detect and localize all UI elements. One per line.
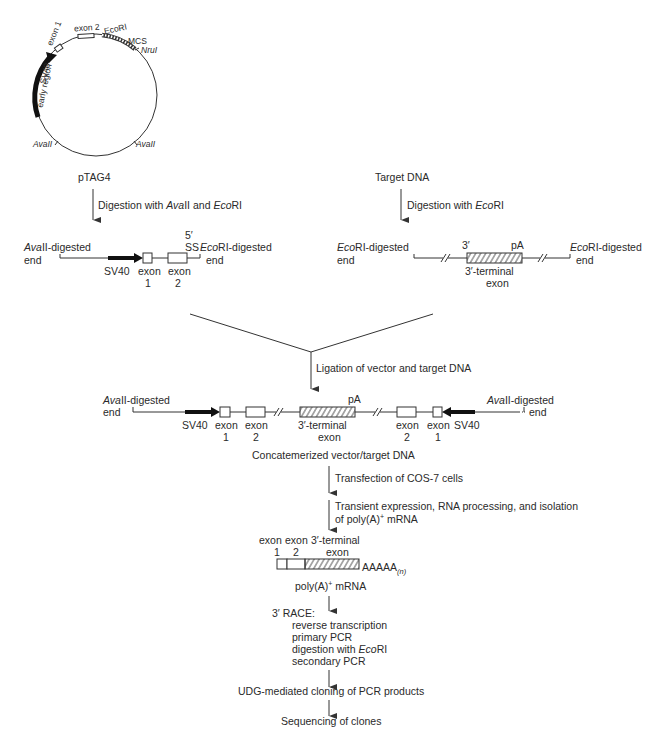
cloning-step-label: UDG-mediated cloning of PCR products	[238, 685, 424, 697]
concat-exon2-right-number: 2	[404, 431, 410, 443]
target-terminal-exon-box	[467, 253, 522, 263]
race-item-reverse-transcription: reverse transcription	[292, 619, 387, 631]
concat-exon1-right-label: exon	[427, 419, 450, 431]
plasmid-circle	[35, 34, 157, 156]
vector-source-label: pTAG4	[78, 171, 111, 183]
vector-sv40-label: SV40	[104, 265, 130, 277]
concat-exon1-left-label: exon	[215, 419, 238, 431]
plasmid-exon1-label: exon 1	[45, 19, 64, 47]
concat-exon1-left-box	[220, 407, 230, 417]
concat-exon2-right-box	[397, 407, 416, 417]
target-left-end-label: EcoRI-digested	[337, 241, 409, 253]
concatemer-label: Concatemerized vector/target DNA	[252, 449, 415, 461]
vector-exon2-box	[168, 253, 187, 263]
mrna-exon1-number: 1	[274, 546, 280, 558]
vector-branch: pTAG4 Digestion with AvaII and EcoRI Ava…	[23, 171, 272, 289]
vector-5ss-label: 5′	[185, 229, 193, 241]
concat-terminal-exon-label-2: exon	[318, 431, 341, 443]
concat-sv40-right-label: SV40	[454, 419, 480, 431]
concat-exon2-left-number: 2	[253, 431, 259, 443]
target-right-flank	[545, 254, 570, 258]
transfection-step-label: Transfection of COS-7 cells	[335, 472, 463, 484]
mrna-exon2-box	[287, 559, 305, 569]
concat-exon1-right-box	[433, 407, 442, 417]
target-pa-label: pA	[511, 239, 524, 251]
mrna-polya-tail: AAAAA(n)	[362, 561, 407, 576]
processing-steps: Transfection of COS-7 cells Transient ex…	[329, 466, 578, 530]
concat-terminal-exon-label: 3′-terminal	[298, 419, 347, 431]
concat-sv40-left-label: SV40	[182, 419, 208, 431]
target-terminal-exon-label-2: exon	[486, 277, 509, 289]
vector-exon2-label: exon	[168, 265, 191, 277]
expression-step-label-2: of poly(A)+ mRNA	[335, 513, 418, 525]
vector-exon2-number: 2	[175, 277, 181, 289]
concat-terminal-exon-box	[300, 407, 355, 417]
mrna-exon1-box	[277, 559, 287, 569]
mrna-exon2-number: 2	[293, 546, 299, 558]
vector-exon1-number: 1	[145, 277, 151, 289]
target-branch: Target DNA Digestion with EcoRI EcoRI-di…	[337, 171, 642, 289]
vector-sv40-arrowhead-icon	[134, 253, 143, 263]
vector-exon1-label: exon	[138, 265, 161, 277]
vector-exon1-box	[143, 253, 152, 263]
concat-left-end-label-2: end	[103, 406, 121, 418]
plasmid-exon2-box	[78, 33, 94, 38]
mrna-exon2-label: exon	[285, 534, 308, 546]
concatemer: AvaII-digested end AvaII-digested end pA…	[102, 393, 554, 461]
vector-left-end-label: AvaII-digested	[23, 241, 91, 253]
target-right-end-label: EcoRI-digested	[570, 241, 642, 253]
vector-digestion-label: Digestion with AvaII and EcoRI	[98, 199, 242, 211]
mrna-terminal-exon-label-2: exon	[326, 546, 349, 558]
concat-exon2-left-label: exon	[245, 419, 268, 431]
target-source-label: Target DNA	[375, 171, 429, 183]
concat-left-end-label: AvaII-digested	[102, 394, 170, 406]
target-left-flank	[414, 254, 443, 258]
concat-pa-label: pA	[348, 393, 361, 405]
vector-backbone-line	[60, 254, 108, 258]
target-3prime-label: 3′	[462, 239, 470, 251]
ligation-step-label: Ligation of vector and target DNA	[316, 362, 471, 374]
vector-right-end-label: EcoRI-digested	[200, 241, 272, 253]
concat-exon1-left-number: 1	[223, 431, 229, 443]
plasmid-map: exon 1 exon 2 EcoRI MCS NruI SV40 early …	[32, 19, 158, 156]
race-title: 3′ RACE:	[272, 607, 315, 619]
mrna-label: poly(A)+ mRNA	[295, 580, 366, 592]
sequencing-step-label: Sequencing of clones	[281, 715, 381, 727]
race-steps: 3′ RACE: reverse transcription primary P…	[238, 596, 424, 727]
plasmid-avaii-left-label: AvaII	[32, 139, 53, 149]
concat-exon2-right-label: exon	[396, 419, 419, 431]
concat-exon2-left-box	[246, 407, 265, 417]
plasmid-nrui-label: NruI	[141, 45, 158, 55]
plasmid-exon1-box	[54, 44, 63, 52]
mrna-terminal-exon-box	[305, 559, 359, 569]
plasmid-avaii-right-label: AvaII	[135, 139, 156, 149]
target-left-end-label-2: end	[337, 254, 355, 266]
race-cloning-diagram: exon 1 exon 2 EcoRI MCS NruI SV40 early …	[0, 0, 658, 733]
race-item-digestion: digestion with EcoRI	[292, 643, 387, 655]
concat-sv40-right-arrowhead-icon	[442, 407, 451, 417]
concat-right-end-label: AvaII-digested	[486, 394, 554, 406]
poly-a-mrna: exon 1 exon 2 3′-terminal exon AAAAA(n) …	[259, 534, 407, 592]
race-item-primary-pcr: primary PCR	[292, 631, 353, 643]
target-terminal-exon-label: 3′-terminal	[465, 265, 514, 277]
concat-right-end-label-2: end	[529, 406, 547, 418]
target-digestion-label: Digestion with EcoRI	[407, 199, 504, 211]
concat-sv40-left-arrowhead-icon	[211, 407, 220, 417]
expression-step-label: Transient expression, RNA processing, an…	[335, 500, 578, 512]
mrna-exon1-label: exon	[259, 534, 282, 546]
plasmid-ecori-label: EcoRI	[103, 22, 128, 37]
race-item-secondary-pcr: secondary PCR	[292, 655, 366, 667]
merge-lines: Ligation of vector and target DNA	[190, 314, 471, 389]
vector-ss-label: SS	[185, 241, 199, 253]
target-right-end-label-2: end	[576, 254, 594, 266]
vector-left-end-label-2: end	[24, 254, 42, 266]
concat-exon1-right-number: 1	[435, 431, 441, 443]
plasmid-exon2-label: exon 2	[74, 22, 100, 34]
vector-right-end-label-2: end	[206, 254, 224, 266]
mrna-terminal-exon-label: 3′-terminal	[311, 534, 360, 546]
